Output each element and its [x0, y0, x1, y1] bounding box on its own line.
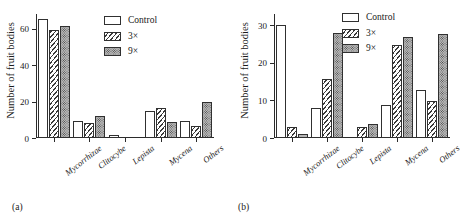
- x-axis-label: Lepista: [130, 143, 156, 166]
- x-axis-label: Others: [201, 143, 225, 165]
- panel-tag-a: (a): [12, 202, 23, 212]
- bar: [84, 123, 94, 138]
- bar-group: [274, 14, 309, 138]
- bar-group: [309, 14, 344, 138]
- y-tick-label: 40: [20, 61, 29, 70]
- bar: [322, 79, 332, 138]
- y-tick-label: 0: [263, 134, 268, 143]
- x-axis-label: Others: [437, 143, 461, 165]
- bar: [95, 116, 105, 138]
- bar-group: [36, 14, 72, 138]
- y-tick-label: 20: [20, 98, 29, 107]
- bar: [156, 108, 166, 138]
- bar: [276, 25, 286, 138]
- legend-label: Control: [128, 16, 157, 26]
- legend-swatch-icon: [104, 47, 121, 56]
- bar: [403, 37, 413, 138]
- figure-two-panel-bar-chart: Number of fruit bodies 0204060 Mycorrhiz…: [0, 0, 469, 219]
- bar: [287, 127, 297, 138]
- bar: [368, 124, 378, 138]
- y-tick-label: 0: [25, 134, 30, 143]
- bar: [438, 34, 448, 138]
- bar: [49, 30, 59, 139]
- y-axis-label-b: Number of fruit bodies: [236, 0, 252, 140]
- legend-label: 9×: [366, 44, 376, 54]
- x-axis-label: Mycorrhizae: [63, 143, 103, 178]
- bar: [180, 121, 190, 138]
- panel-tag-b: (b): [238, 202, 249, 212]
- x-axis-labels-a: MycorrhizaeClitocybeLepistaMycenaOthers: [36, 139, 214, 197]
- bar: [416, 90, 426, 138]
- x-axis-label: Mycena: [166, 143, 193, 167]
- y-axis-label-a: Number of fruit bodies: [2, 0, 18, 140]
- legend-label: Control: [366, 13, 395, 23]
- bar: [298, 134, 308, 138]
- legend-item: Control: [342, 13, 395, 23]
- panel-a: Number of fruit bodies 0204060 Mycorrhiz…: [0, 0, 234, 219]
- x-axis-label: Mycena: [403, 143, 430, 167]
- panel-b: Number of fruit bodies 0102030 Mycorrhiz…: [234, 0, 469, 219]
- legend-item: Control: [104, 16, 157, 26]
- x-axis-labels-b: MycorrhizaeClitocybeLepistaMycenaOthers: [274, 139, 450, 197]
- legend-label: 3×: [366, 29, 376, 39]
- legend-label: 3×: [128, 32, 138, 42]
- bar-group: [415, 14, 450, 138]
- bar-group: [72, 14, 108, 138]
- legend-label: 9×: [128, 47, 138, 57]
- bar: [60, 26, 70, 138]
- x-axis-label: Lepista: [367, 143, 393, 166]
- bar: [73, 121, 83, 138]
- y-tick-label: 30: [258, 21, 267, 30]
- bar: [311, 108, 321, 138]
- legend-item: 9×: [104, 47, 157, 57]
- y-tick-label: 10: [258, 96, 267, 105]
- bar: [357, 127, 367, 138]
- legend-swatch-icon: [342, 13, 359, 22]
- y-tick-label: 20: [258, 59, 267, 68]
- bar: [381, 105, 391, 138]
- bar: [191, 126, 201, 138]
- legend-b: Control3×9×: [342, 13, 395, 54]
- legend-swatch-icon: [104, 16, 121, 25]
- legend-swatch-icon: [342, 44, 359, 53]
- y-tick-label: 60: [20, 25, 29, 34]
- bar: [202, 102, 212, 138]
- legend-item: 9×: [342, 44, 395, 54]
- x-axis-label: Mycorrhizae: [301, 143, 341, 178]
- bar: [427, 101, 437, 138]
- legend-item: 3×: [104, 32, 157, 42]
- bar-group: [178, 14, 214, 138]
- bar: [167, 122, 177, 138]
- bar: [109, 135, 119, 138]
- legend-swatch-icon: [104, 32, 121, 41]
- legend-item: 3×: [342, 29, 395, 39]
- bar: [38, 19, 48, 138]
- bar: [392, 45, 402, 138]
- legend-a: Control3×9×: [104, 16, 157, 57]
- bar: [145, 111, 155, 138]
- legend-swatch-icon: [342, 29, 359, 38]
